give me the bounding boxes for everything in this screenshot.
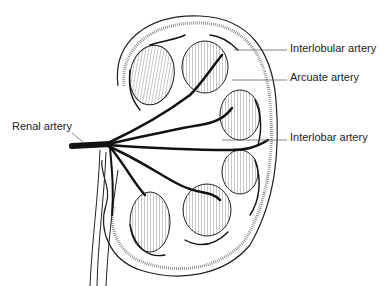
interlobar-lower <box>108 146 220 200</box>
renal-artery-trunk <box>72 144 110 146</box>
label-interlobar-artery: Interlobar artery <box>290 131 368 143</box>
label-renal-artery: Renal artery <box>12 120 72 132</box>
pyramid-6 <box>183 184 231 236</box>
label-interlobular-artery: Interlobular artery <box>290 42 376 54</box>
label-arcuate-artery: Arcuate artery <box>290 71 359 83</box>
pyramid-2 <box>182 41 228 93</box>
leader-renal <box>72 133 84 143</box>
pyramid-5 <box>130 192 170 252</box>
interlobar-mid <box>108 140 268 150</box>
pyramid-4 <box>222 150 258 194</box>
